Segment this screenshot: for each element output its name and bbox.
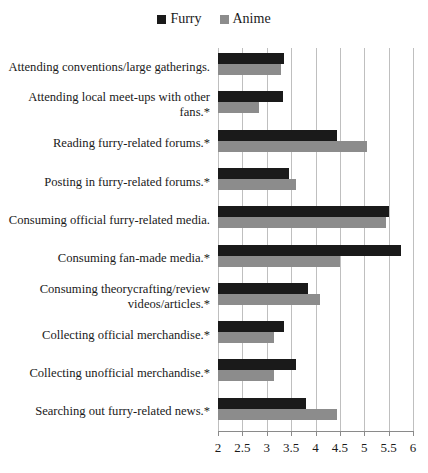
category-label: Collecting official merchandise.*: [0, 328, 210, 343]
bar-anime: [218, 370, 274, 381]
x-axis-tick: [316, 431, 317, 436]
legend-entry-anime: Anime: [220, 12, 271, 26]
bar-anime: [218, 217, 386, 228]
x-axis-tick-label: 3.5: [283, 440, 299, 456]
bar-furry: [218, 398, 306, 409]
bar-row: [218, 125, 413, 163]
bar-furry: [218, 321, 284, 332]
x-axis-tick-label: 5.5: [381, 440, 397, 456]
bar-furry: [218, 283, 308, 294]
x-axis-tick-label: 6: [410, 440, 417, 456]
bar-row: [218, 48, 413, 86]
bar-row: [218, 354, 413, 392]
x-axis-tick: [364, 431, 365, 436]
bar-anime: [218, 409, 337, 420]
x-axis-tick: [413, 431, 414, 436]
category-label: Consuming fan-made media.*: [0, 251, 210, 266]
bar-row: [218, 316, 413, 354]
bar-row: [218, 278, 413, 316]
bar-row: [218, 240, 413, 278]
category-label: Consuming official furry-related media.: [0, 213, 210, 228]
bar-furry: [218, 53, 284, 64]
legend-label-anime: Anime: [233, 12, 271, 26]
category-label: Reading furry-related forums.*: [0, 136, 210, 151]
plot-area: [218, 48, 413, 431]
category-label: Consuming theorycrafting/review videos/a…: [0, 282, 210, 312]
legend-entry-furry: Furry: [157, 12, 201, 26]
legend-swatch-furry: [157, 15, 166, 24]
legend-label-furry: Furry: [170, 12, 201, 26]
bar-anime: [218, 64, 281, 75]
bar-furry: [218, 168, 289, 179]
x-axis-tick-label: 3: [264, 440, 271, 456]
category-label: Collecting unofficial merchandise.*: [0, 366, 210, 381]
bar-furry: [218, 130, 337, 141]
x-axis-tickmarks: [218, 431, 413, 436]
bar-chart: Furry Anime Attending conventions/large …: [0, 0, 428, 473]
x-axis-tick-label: 5: [361, 440, 368, 456]
x-axis-tick: [242, 431, 243, 436]
x-axis-tick: [291, 431, 292, 436]
x-axis-tick-label: 4.5: [332, 440, 348, 456]
x-axis-tick: [267, 431, 268, 436]
gridline: [413, 48, 414, 431]
bar-row: [218, 201, 413, 239]
x-axis-tick-labels: 22.533.544.555.56: [218, 440, 413, 460]
category-label: Attending conventions/large gatherings.: [0, 60, 210, 75]
x-axis-tick: [218, 431, 219, 436]
x-axis-tick-label: 2: [215, 440, 222, 456]
bar-furry: [218, 206, 389, 217]
bar-row: [218, 163, 413, 201]
bar-anime: [218, 256, 340, 267]
chart-legend: Furry Anime: [0, 12, 428, 26]
bar-furry: [218, 245, 401, 256]
bar-furry: [218, 359, 296, 370]
bar-anime: [218, 294, 320, 305]
x-axis-tick-label: 4: [312, 440, 319, 456]
x-axis-tick-label: 2.5: [234, 440, 250, 456]
x-axis-tick: [340, 431, 341, 436]
category-label: Searching out furry-related news.*: [0, 404, 210, 419]
bar-row: [218, 393, 413, 431]
bar-anime: [218, 332, 274, 343]
legend-swatch-anime: [220, 15, 229, 24]
bar-row: [218, 86, 413, 124]
bar-anime: [218, 141, 367, 152]
category-label: Posting in furry-related forums.*: [0, 175, 210, 190]
bar-anime: [218, 102, 259, 113]
x-axis-tick: [389, 431, 390, 436]
bar-anime: [218, 179, 296, 190]
bar-furry: [218, 91, 283, 102]
bar-rows: [218, 48, 413, 431]
category-label: Attending local meet-ups with other fans…: [0, 90, 210, 120]
category-axis-labels: Attending conventions/large gatherings.A…: [0, 48, 214, 431]
